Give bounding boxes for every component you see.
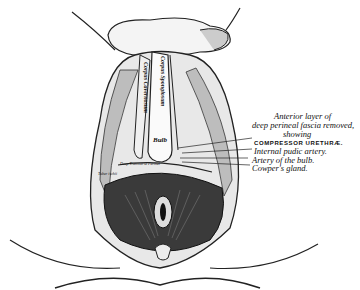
annotation-heading-3: showing (283, 130, 311, 139)
anatomy-figure: Anterior layer of deep perineal fascia r… (0, 0, 360, 290)
label-cowpers-gland: Cowper's gland. (252, 164, 308, 173)
label-tuber-ischii: Tuber ischii (98, 172, 117, 176)
label-bulb: Bulb (153, 137, 167, 144)
label-corpus-spongiosum: Corpus Spongiosum (160, 56, 166, 106)
label-corpus-cavernosum: Corpus Cavernosum (143, 62, 149, 113)
label-deep-transverse: Deep Transverse Perinei (120, 162, 160, 166)
